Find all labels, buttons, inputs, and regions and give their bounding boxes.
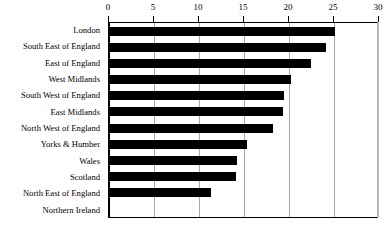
axis-tick-label: 30 [374,2,383,13]
bar [109,59,311,68]
bar-row [109,124,377,133]
bar-row [109,204,377,213]
bar [109,75,291,84]
category-label: Wales [79,156,104,166]
category-label: South West of England [21,90,104,100]
category-label: East of England [45,58,104,68]
gridline [378,23,379,217]
category-label: North West of England [21,123,104,133]
bar-row [109,188,377,197]
category-label: South East of England [23,41,104,51]
bars-layer [109,23,377,217]
bar [109,172,236,181]
bar-row [109,140,377,149]
axis-tick-label: 10 [194,2,203,13]
bar-row [109,27,377,36]
plot-area [108,22,378,218]
bar-row [109,91,377,100]
category-label: Yorks & Humber [41,139,104,149]
bar [109,43,326,52]
category-label: West Midlands [48,74,104,84]
category-label: Northern Ireland [42,205,104,215]
category-label: Scotland [70,172,104,182]
category-label: East Midlands [51,107,104,117]
axis-tick-mark [378,16,379,22]
category-axis: LondonSouth East of EnglandEast of Engla… [0,22,104,218]
bar-row [109,172,377,181]
bar [109,188,211,197]
bar [109,156,237,165]
bar-row [109,75,377,84]
value-axis: 051015202530 [108,0,378,22]
axis-tick-label: 5 [151,2,156,13]
bar-chart: 051015202530 LondonSouth East of England… [0,0,392,240]
axis-tick-label: 20 [284,2,293,13]
bar [109,140,247,149]
axis-tick-label: 0 [106,2,111,13]
category-label: London [73,25,104,35]
bar-row [109,156,377,165]
axis-tick-label: 25 [329,2,338,13]
bar [109,107,283,116]
bar-row [109,43,377,52]
bar-row [109,107,377,116]
bar [109,124,273,133]
category-label: North East of England [23,188,104,198]
bar [109,27,335,36]
bar-row [109,59,377,68]
bar [109,91,284,100]
axis-tick-label: 15 [239,2,248,13]
